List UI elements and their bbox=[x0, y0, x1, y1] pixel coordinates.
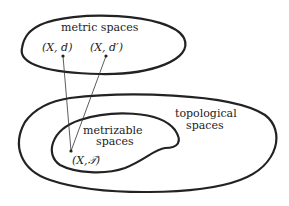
point-topology-label: (X,𝒯) bbox=[72, 154, 100, 167]
point-topology bbox=[69, 149, 72, 152]
point-metric-1-label: (X, d) bbox=[42, 41, 72, 54]
topological-spaces-label-2: spaces bbox=[186, 119, 224, 132]
topological-spaces-region bbox=[19, 95, 276, 192]
topology-symbol: 𝒯 bbox=[88, 154, 100, 167]
point-metric-2-label: (X, d′) bbox=[90, 41, 123, 54]
point-metric-2 bbox=[104, 54, 107, 57]
metric-spaces-label: metric spaces bbox=[61, 21, 139, 34]
venn-diagram: metric spaces (X, d) (X, d′) topological… bbox=[0, 0, 289, 206]
point-metric-1 bbox=[61, 54, 64, 57]
metrizable-spaces-label-2: spaces bbox=[96, 135, 134, 148]
map-line-1 bbox=[63, 56, 71, 151]
